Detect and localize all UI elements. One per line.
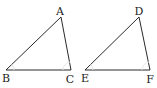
vertex-label-e: E: [81, 72, 89, 85]
vertex-label-b: B: [2, 72, 10, 85]
angle-b-arc: [12, 64, 14, 70]
vertex-label-f: F: [146, 73, 154, 86]
angle-f-arc: [142, 62, 149, 70]
vertex-label-c: C: [66, 73, 74, 86]
vertex-label-a: A: [55, 5, 65, 18]
diagram-canvas: A B C D E F: [0, 0, 157, 88]
angle-c-arc: [63, 62, 70, 70]
angle-e-arc: [91, 64, 93, 70]
triangle-def-outline: [85, 17, 150, 70]
triangle-abc: A B C: [2, 5, 74, 86]
triangle-def: D E F: [81, 5, 154, 86]
triangle-abc-outline: [6, 17, 71, 70]
vertex-label-d: D: [135, 5, 144, 18]
